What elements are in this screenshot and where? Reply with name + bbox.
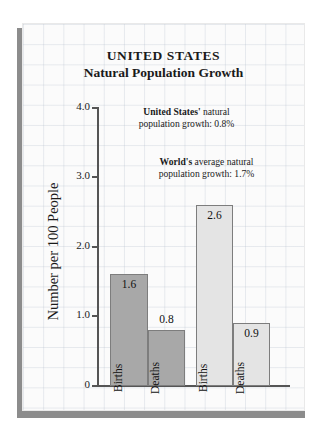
annotation-united-states-growth: United States' natural population growth…	[104, 106, 269, 129]
y-tick-label-3: 3.0	[62, 169, 90, 181]
y-tick-mark-2	[92, 246, 97, 248]
annotation-us-line2: population growth: 0.8%	[139, 118, 235, 129]
annotation-us-rest: natural	[201, 106, 230, 117]
bar-value-world-deaths: 0.9	[233, 327, 270, 339]
bar-value-us-births: 1.6	[110, 278, 148, 290]
bar-value-world-births: 2.6	[196, 209, 233, 221]
frame-shadow-bottom	[17, 411, 305, 418]
y-tick-mark-1	[92, 315, 97, 317]
bar-category-world-deaths: Deaths	[234, 362, 246, 394]
annotation-world-rest: average natural	[192, 156, 253, 167]
y-tick-mark-4	[92, 107, 97, 109]
annotation-world-line2: population growth: 1.7%	[159, 168, 255, 179]
chart-title-line1: UNITED STATES	[22, 48, 305, 64]
bar-world-births	[196, 205, 233, 386]
y-tick-label-4: 4.0	[62, 100, 90, 112]
y-tick-label-0: 0	[62, 378, 90, 390]
annotation-world-bold: World's	[160, 156, 193, 167]
annotation-world-growth: World's average natural population growt…	[124, 156, 289, 179]
bar-category-world-births: Births	[197, 364, 209, 392]
y-tick-label-2: 2.0	[62, 239, 90, 251]
y-axis-label: Number per 100 People	[45, 137, 62, 367]
y-axis-line	[97, 107, 99, 386]
chart-title-line2: Natural Population Growth	[22, 64, 305, 81]
annotation-us-bold: United States'	[143, 106, 200, 117]
y-tick-label-1: 1.0	[62, 308, 90, 320]
bar-value-us-deaths: 0.8	[148, 313, 185, 325]
y-tick-mark-0	[92, 385, 97, 387]
bar-category-us-births: Births	[112, 364, 124, 392]
y-tick-mark-3	[92, 176, 97, 178]
chart-title: UNITED STATES Natural Population Growth	[22, 48, 305, 81]
chart-figure: UNITED STATES Natural Population Growth …	[0, 0, 319, 447]
bar-category-us-deaths: Deaths	[149, 362, 161, 394]
